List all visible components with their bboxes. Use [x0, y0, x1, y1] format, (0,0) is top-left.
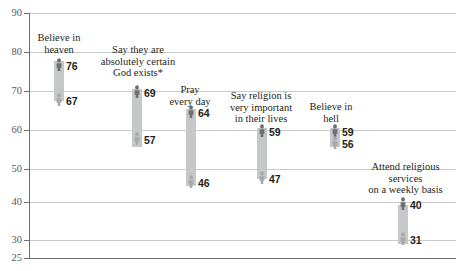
value-label-low-4: 47	[269, 173, 281, 185]
person-icon-high-1	[54, 58, 64, 71]
person-icon-high-2	[132, 85, 142, 98]
y-tick-label-25: 25	[0, 252, 22, 263]
value-label-high-4: 59	[269, 126, 281, 138]
tick-mark-30	[24, 240, 29, 241]
value-label-low-3: 46	[198, 177, 210, 189]
tick-mark-60	[24, 130, 29, 131]
person-icon-low-3	[186, 175, 196, 188]
person-icon-low-1	[54, 93, 64, 106]
value-label-high-3: 64	[198, 107, 210, 119]
value-label-low-1: 67	[66, 95, 78, 107]
y-tick-label-40: 40	[0, 196, 22, 207]
y-tick-label-90: 90	[0, 7, 22, 18]
value-label-high-5: 59	[342, 126, 354, 138]
gridline-40	[29, 202, 456, 203]
tick-mark-50	[24, 169, 29, 170]
category-label-believe-in-hell: Believe in hell	[293, 101, 369, 124]
person-icon-low-5	[330, 136, 340, 149]
gridline-30	[29, 240, 456, 241]
y-tick-label-50: 50	[0, 163, 22, 174]
tick-mark-40	[24, 202, 29, 203]
gridline-60	[29, 130, 456, 131]
person-icon-high-4	[257, 124, 267, 137]
y-tick-label-30: 30	[0, 234, 22, 245]
value-label-low-6: 31	[410, 234, 422, 246]
value-label-high-6: 40	[410, 199, 422, 211]
chart-container: 90 80 70 60 50 40 30 25 Believe in heave…	[0, 0, 456, 271]
tick-mark-70	[24, 91, 29, 92]
value-label-high-1: 76	[66, 60, 78, 72]
x-axis-baseline	[29, 258, 456, 259]
person-icon-low-4	[257, 171, 267, 184]
y-tick-label-80: 80	[0, 46, 22, 57]
gridline-90	[29, 13, 456, 14]
value-label-low-5: 56	[342, 138, 354, 150]
y-tick-label-60: 60	[0, 124, 22, 135]
y-tick-label-70: 70	[0, 85, 22, 96]
category-label-god-exists: Say they are absolutely certain God exis…	[88, 44, 188, 79]
person-icon-low-2	[132, 132, 142, 145]
person-icon-high-3	[186, 105, 196, 118]
person-icon-low-6	[398, 232, 408, 245]
category-label-attend-religious-services: Attend religious services on a weekly ba…	[355, 161, 456, 196]
tick-mark-25	[24, 258, 29, 259]
tick-mark-90	[24, 13, 29, 14]
value-label-low-2: 57	[144, 134, 156, 146]
person-icon-high-6	[398, 197, 408, 210]
category-label-believe-in-heaven: Believe in heaven	[20, 32, 98, 55]
